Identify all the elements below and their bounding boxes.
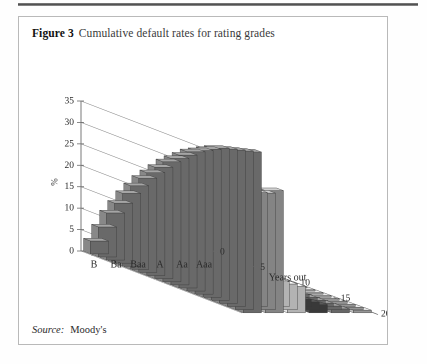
figure-title: Figure 3Cumulative default rates for rat…: [32, 27, 275, 39]
page-root: Figure 3Cumulative default rates for rat…: [0, 0, 427, 364]
source-label: Source:: [32, 324, 64, 335]
source-value: Moody's: [70, 324, 106, 335]
chart-axis-z-title: Years out: [19, 17, 20, 18]
chart-data-mirror: % 0 5 10 15 20 25 30 35 | Years out 0 5 …: [19, 17, 20, 18]
figure-box: Figure 3Cumulative default rates for rat…: [18, 16, 388, 345]
cumulative-default-rates-3d-chart: [19, 39, 387, 317]
page-top-rule: [18, 3, 418, 6]
figure-number: Figure 3: [32, 27, 74, 39]
chart-axis-y-title: %: [19, 17, 20, 18]
source-line: Source:Moody's: [32, 324, 107, 335]
figure-title-text: Cumulative default rates for rating grad…: [79, 27, 275, 39]
